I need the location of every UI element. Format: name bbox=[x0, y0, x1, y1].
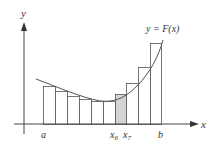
rectangle bbox=[92, 102, 104, 125]
y-axis-arrow-icon bbox=[21, 22, 27, 31]
y-axis-label: y bbox=[20, 7, 26, 19]
riemann-sum-diagram: y x y = F(x) a b x6 x7 bbox=[0, 0, 213, 146]
rectangles-group bbox=[44, 44, 162, 125]
tick-label-x6: x6 bbox=[109, 129, 118, 142]
x-axis-arrow-icon bbox=[190, 121, 199, 127]
rectangle bbox=[80, 100, 92, 125]
rectangle bbox=[68, 97, 80, 125]
x-axis-label: x bbox=[200, 118, 206, 130]
rectangle bbox=[104, 102, 116, 125]
tick-label-b: b bbox=[158, 129, 163, 140]
rectangle bbox=[151, 44, 162, 125]
tick-label-a: a bbox=[41, 129, 46, 140]
rectangle bbox=[139, 68, 151, 125]
rectangle bbox=[44, 87, 56, 125]
tick-label-x7: x7 bbox=[122, 129, 131, 142]
curve-label: y = F(x) bbox=[145, 23, 180, 35]
rectangle bbox=[56, 92, 68, 125]
